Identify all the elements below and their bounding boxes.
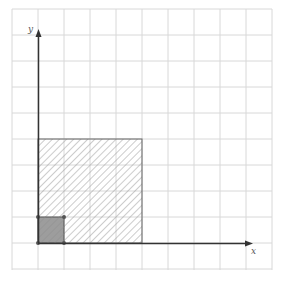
coordinate-diagram: y x: [0, 0, 292, 287]
y-axis-arrow-icon: [36, 29, 42, 37]
small-square-hatch: [38, 217, 64, 243]
y-axis-label: y: [27, 24, 34, 34]
x-axis-label: x: [251, 246, 256, 256]
